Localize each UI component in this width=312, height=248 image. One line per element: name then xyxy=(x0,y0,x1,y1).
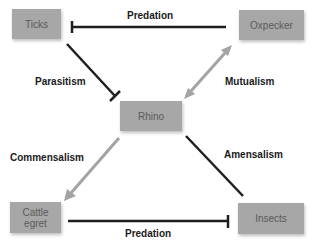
node-insects-label: Insects xyxy=(255,213,287,224)
edge-commensalism-rhino-cattle-egret xyxy=(64,138,119,201)
node-cattle-egret-label-line2: egret xyxy=(24,218,47,229)
edge-label-predation-bottom: Predation xyxy=(125,228,171,239)
node-ticks: Ticks xyxy=(12,9,61,39)
edge-label-amensalism: Amensalism xyxy=(224,149,283,160)
ecological-relationships-diagram: Ticks Oxpecker Rhino Cattle egret Insect… xyxy=(0,0,312,248)
edge-label-mutualism: Mutualism xyxy=(225,76,274,87)
edge-predation-cattle-egret-insects xyxy=(68,215,228,228)
node-cattle-egret-label-line1: Cattle xyxy=(22,207,48,218)
node-rhino-label: Rhino xyxy=(138,111,164,122)
edge-amensalism-rhino-insects xyxy=(186,136,243,196)
node-rhino: Rhino xyxy=(120,101,182,131)
edge-predation-oxpecker-ticks xyxy=(72,21,226,33)
node-insects: Insects xyxy=(238,203,304,234)
edge-mutualism-oxpecker-rhino xyxy=(184,45,232,99)
edge-parasitism-ticks-rhino xyxy=(67,44,120,101)
node-oxpecker-label: Oxpecker xyxy=(250,20,293,31)
node-cattle-egret: Cattle egret xyxy=(10,202,61,233)
edge-label-predation-top: Predation xyxy=(127,10,173,21)
node-oxpecker: Oxpecker xyxy=(239,10,304,40)
edge-label-commensalism: Commensalism xyxy=(10,152,84,163)
node-ticks-label: Ticks xyxy=(25,19,48,30)
edge-label-parasitism: Parasitism xyxy=(35,76,86,87)
